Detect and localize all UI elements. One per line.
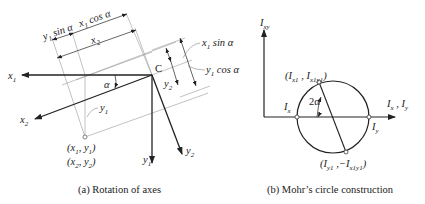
y1-cos-alpha-label: y1 cos α bbox=[205, 64, 239, 78]
alpha-label: α bbox=[104, 79, 110, 90]
alpha-arc bbox=[115, 75, 116, 88]
origin-label: C bbox=[155, 63, 162, 74]
y1-sin-alpha-label: y1 sin α bbox=[40, 21, 75, 45]
ix-point-marker bbox=[295, 115, 299, 119]
iy-point-marker bbox=[367, 115, 371, 119]
point-marker bbox=[83, 135, 87, 139]
top-point-label: (Ix1 , Ix1y1) bbox=[285, 70, 327, 84]
axes bbox=[22, 75, 182, 163]
x1-cos-alpha-label: x1 cos α bbox=[76, 8, 113, 32]
bottom-point-marker bbox=[344, 150, 348, 154]
point-coord-2: (x2, y2) bbox=[67, 156, 96, 170]
ix-point-label: Ix bbox=[283, 101, 292, 115]
y1-dimension-label: y1 bbox=[99, 102, 108, 116]
point-coord-1: (x1, y1) bbox=[67, 142, 96, 156]
ixy-axis-label: Ixy bbox=[259, 17, 271, 31]
x2-axis bbox=[35, 75, 152, 119]
x2-label: x2 bbox=[19, 114, 29, 128]
ix-iy-axis-label: Ix , Iy bbox=[386, 98, 409, 112]
rotation-of-axes-diagram: C α x1 x2 y1 y2 y1 sin α x1 cos α x2 x1 … bbox=[7, 8, 239, 196]
bottom-point-label: (Iy1 ,−Ix1y1) bbox=[320, 158, 367, 172]
y2-dimension-label: y2 bbox=[163, 78, 173, 92]
mohr-circle-diagram: Ixy Ix , Iy (Ix1 , Ix1y1) (Iy1 ,−Ix1y1) … bbox=[259, 17, 409, 196]
x1-label: x1 bbox=[7, 70, 16, 84]
x1-sin-alpha-label: x1 sin α bbox=[201, 37, 234, 51]
y1-axis-label: y1 bbox=[142, 154, 151, 168]
caption-b: (b) Mohr’s circle construction bbox=[267, 184, 394, 196]
figure-canvas: C α x1 x2 y1 y2 y1 sin α x1 cos α x2 x1 … bbox=[0, 0, 425, 204]
two-alpha-label: 2α bbox=[309, 96, 320, 107]
iy-point-label: Iy bbox=[371, 121, 380, 135]
y2-axis-label: y2 bbox=[185, 145, 195, 159]
caption-a: (a) Rotation of axes bbox=[78, 184, 161, 196]
